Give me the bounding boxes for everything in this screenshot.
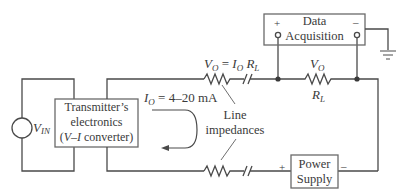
current-arrowhead-icon <box>161 145 169 151</box>
power-supply-minus-sign: – <box>341 159 347 174</box>
vo-equals-io-rl-label: VO = IO RL <box>204 56 259 73</box>
ground-icon <box>380 51 396 59</box>
daq-plus-sign: + <box>274 16 280 31</box>
line-impedance-leader-bottom <box>221 139 236 160</box>
line-impedance-resistor-top-icon <box>204 74 241 84</box>
daq-minus-sign: – <box>353 15 359 30</box>
vin-label: VIN <box>33 120 50 137</box>
power-supply-label: Power Supply <box>291 157 338 187</box>
rl-label: RL <box>312 87 325 104</box>
current-label: IO = 4–20 mA <box>144 90 217 107</box>
transmitter-label: Transmitter’s electronics (V–I converter… <box>55 100 138 145</box>
line-impedance-resistor-bottom-icon <box>204 166 241 176</box>
line-impedance-leader-top <box>222 85 235 104</box>
current-loop-arrow-icon <box>152 110 197 148</box>
daq-line2: Acquisition <box>264 29 365 44</box>
line-impedances-label: Line impedances <box>205 108 265 138</box>
bottom-wire <box>107 147 204 171</box>
line-capacitance-top-icon <box>241 74 278 84</box>
node-dot-minus <box>354 76 359 81</box>
node-dot-plus <box>275 76 280 81</box>
power-supply-plus-sign: + <box>279 160 285 175</box>
ground-wire <box>365 29 388 50</box>
vo-label: VO <box>310 56 324 73</box>
vin-source-icon <box>12 118 32 138</box>
